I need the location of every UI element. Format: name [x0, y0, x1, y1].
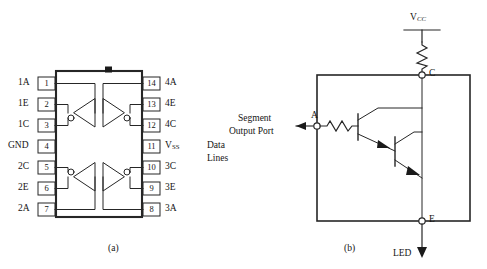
led-label: LED	[393, 249, 411, 259]
pin-number-14: 14	[143, 78, 160, 89]
pin-label-4a: 4A	[165, 78, 177, 88]
pin-number-6: 6	[38, 183, 55, 194]
pin-label-3a: 3A	[165, 204, 177, 214]
pin-label-2e: 2E	[18, 183, 29, 193]
led-arrowhead-icon	[417, 247, 427, 258]
pin-number-4: 4	[38, 141, 55, 152]
pin-label-4e: 4E	[165, 99, 176, 109]
pullup-resistor	[417, 42, 427, 75]
pin-number-10: 10	[143, 162, 160, 173]
terminal-a-label: A	[311, 111, 318, 121]
figure-container: 1A 1E 1C GND 2C 2E 2A 1 2 3 4 5 6 7 14 1…	[0, 0, 487, 269]
pin-label-1c: 1C	[18, 120, 29, 130]
internal-wiring-stage-3	[103, 163, 143, 210]
base-resistor	[320, 121, 358, 131]
pin-number-1: 1	[38, 78, 55, 89]
pin-label-3c: 3C	[165, 162, 176, 172]
caption-panel-b: (b)	[344, 243, 355, 253]
internal-wiring-stage-1	[55, 84, 95, 128]
vss-subscript: SS	[172, 143, 180, 150]
pin-number-11: 11	[143, 141, 160, 152]
segment-output-port-line2: Output Port	[229, 127, 274, 137]
terminal-e-label: E	[429, 215, 435, 225]
pin-label-1e: 1E	[18, 99, 29, 109]
pin-number-9: 9	[143, 183, 160, 194]
pin-number-7: 7	[38, 204, 55, 215]
terminal-c-label: C	[429, 69, 435, 79]
segment-output-port-line1: Segment	[238, 114, 271, 124]
driver-enclosure-box	[317, 75, 470, 221]
pin-label-gnd: GND	[8, 141, 29, 151]
data-lines-note-line2: Lines	[207, 154, 228, 164]
vcc-letter: V	[410, 12, 417, 22]
pin-label-3e: 3E	[165, 183, 176, 193]
pin-label-vss: VSS	[165, 141, 179, 151]
vcc-subscript: CC	[417, 15, 426, 22]
pin-label-1a: 1A	[18, 78, 30, 88]
transistor-q1-leads	[358, 108, 422, 151]
transistor-q2-emitter-arrow	[406, 166, 420, 175]
pin-number-3: 3	[38, 120, 55, 131]
terminal-e-node	[419, 218, 425, 224]
pin-label-2a: 2A	[18, 204, 30, 214]
input-port-arrowhead-icon	[296, 122, 306, 130]
ic-package-a	[56, 71, 142, 217]
terminal-c-node	[419, 72, 425, 78]
caption-panel-a: (a)	[108, 243, 119, 253]
pin-number-2: 2	[38, 99, 55, 110]
orientation-notch-icon	[105, 67, 112, 73]
transistor-q1-emitter-arrow	[377, 140, 390, 148]
terminal-a-node	[314, 123, 320, 129]
pin-label-2c: 2C	[18, 162, 29, 172]
pin-number-12: 12	[143, 120, 160, 131]
vcc-rail	[404, 30, 440, 42]
pin-label-4c: 4C	[165, 120, 176, 130]
pin-number-13: 13	[143, 99, 160, 110]
pin-number-8: 8	[143, 204, 160, 215]
data-lines-note-line1: Data	[207, 141, 225, 151]
vcc-label: VCC	[410, 13, 426, 23]
internal-wiring-stage-2	[55, 163, 95, 210]
internal-wiring-stage-4	[103, 84, 143, 128]
vss-letter: V	[165, 140, 172, 150]
pin-number-5: 5	[38, 162, 55, 173]
